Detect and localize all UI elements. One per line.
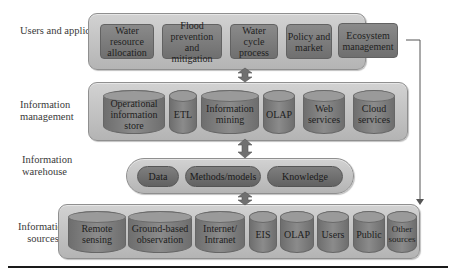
connector-arrowhead xyxy=(416,199,424,205)
sources-item-remote-sensing-text: Remote sensing xyxy=(69,219,125,245)
double-arrow-users-management xyxy=(238,68,252,82)
management-item-olap-text: OLAP xyxy=(266,105,292,120)
double-arrow-management-warehouse xyxy=(238,139,252,158)
sources-item-olap-text: OLAP xyxy=(284,225,310,240)
sources-item-users-text: Users xyxy=(322,225,345,240)
management-item-cloud-services-text: Cloud services xyxy=(354,99,394,125)
sources-item-eis-text: EIS xyxy=(256,225,271,240)
management-item-operational-store: Operational information store xyxy=(103,90,165,134)
sources-item-public-text: Public xyxy=(356,225,382,240)
sources-item-ground-based-text: Ground-based observation xyxy=(129,219,191,245)
sources-item-internet-intranet-text: Internet/ Intranet xyxy=(196,219,244,245)
bottom-rule xyxy=(8,266,448,268)
management-item-information-mining-text: Information mining xyxy=(202,99,258,125)
management-item-operational-store-text: Operational information store xyxy=(104,94,164,131)
double-arrow-warehouse-sources xyxy=(238,192,252,205)
management-item-etl-text: ETL xyxy=(174,105,192,120)
sources-item-other-sources-text: Other sources xyxy=(388,220,416,244)
management-item-web-services-text: Web services xyxy=(304,99,344,125)
connector-ecosystem-to-other-sources xyxy=(406,40,420,202)
